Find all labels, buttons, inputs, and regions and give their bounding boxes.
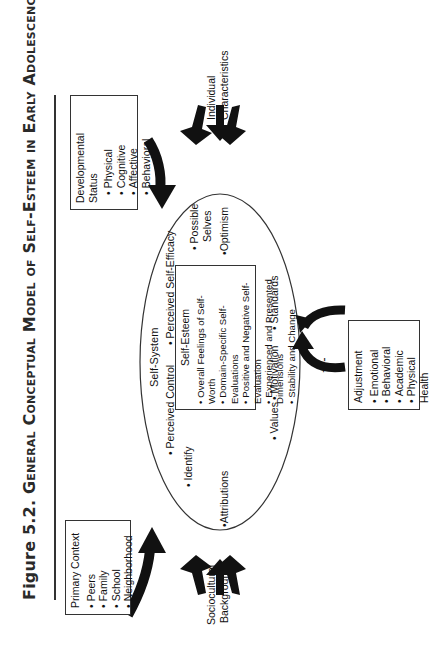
self-system-heading: Self-System <box>148 328 161 387</box>
list-item: Academic <box>393 327 406 403</box>
self-esteem-box: Self-Esteem Overall Feelings of Self-Wor… <box>175 265 256 410</box>
primary-context-list: Peers Family School Neighborhood <box>85 527 135 608</box>
individual-characteristics-line2: Characteristics <box>218 51 231 120</box>
adjustment-heading: Adjustment <box>352 327 365 403</box>
individual-characteristics-line1: Individual <box>205 51 218 120</box>
values-label: • Values <box>268 402 281 440</box>
identify-label: • Identify <box>182 447 195 487</box>
developmental-status-box: Developmental Status Physical Cognitive … <box>70 95 138 210</box>
self-esteem-list: Overall Feelings of Self-Worth Domain-Sp… <box>195 271 298 404</box>
list-item: Family <box>97 527 110 608</box>
adjustment-list: Emotional Behavioral Academic Physical H… <box>368 327 431 403</box>
developmental-status-arrowhead-icon <box>148 185 176 209</box>
self-esteem-heading: Self-Esteem <box>179 271 192 404</box>
sociocultural-background-line1: Sociocultural <box>205 565 218 625</box>
optimism-label: •Optimism <box>218 207 231 255</box>
list-item: Overall Feelings of Self-Worth <box>195 271 218 404</box>
list-item: Domain-Specific Self-Evaluations <box>217 271 240 404</box>
list-item: Emotional <box>368 327 381 403</box>
diagram-canvas: Figure 5.2. General Conceptual Model of … <box>0 0 438 645</box>
list-item: Physical Health <box>405 327 430 403</box>
adjustment-box: Adjustment Emotional Behavioral Academic… <box>348 320 420 410</box>
list-item: Positive and Negative Self-Evaluation <box>240 271 263 404</box>
list-item: Peers <box>85 527 98 608</box>
primary-context-heading: Primary Context <box>69 527 82 608</box>
list-item: Experienced and Presented Dimensions <box>263 271 286 404</box>
figure-frame: Figure 5.2. General Conceptual Model of … <box>0 0 438 645</box>
sociocultural-background-line2: Background <box>218 565 231 625</box>
list-item: Cognitive <box>115 102 128 195</box>
list-item: Stability and Change <box>286 271 297 404</box>
list-item: Neighborhood <box>122 527 135 608</box>
list-item: Behavioral <box>140 102 153 195</box>
individual-characteristics-label: Individual Characteristics <box>205 51 230 120</box>
sociocultural-background-label: Sociocultural Background <box>205 565 230 625</box>
list-item: Affective <box>127 102 140 195</box>
attributions-label: •Attributions <box>218 471 231 527</box>
feedback-arrow-to-self-system <box>304 310 345 327</box>
developmental-status-list: Physical Cognitive Affective Behavioral <box>102 102 152 203</box>
list-item: Physical <box>102 102 115 195</box>
primary-context-box: Primary Context Peers Family School Neig… <box>65 520 131 615</box>
list-item: School <box>110 527 123 608</box>
primary-context-arrowhead-icon <box>138 527 166 553</box>
possible-selves-label: • Possible Selves <box>188 204 213 250</box>
feedback-label: +/- <box>318 357 331 373</box>
list-item: Behavioral <box>380 327 393 403</box>
developmental-status-heading: Developmental Status <box>74 102 99 203</box>
